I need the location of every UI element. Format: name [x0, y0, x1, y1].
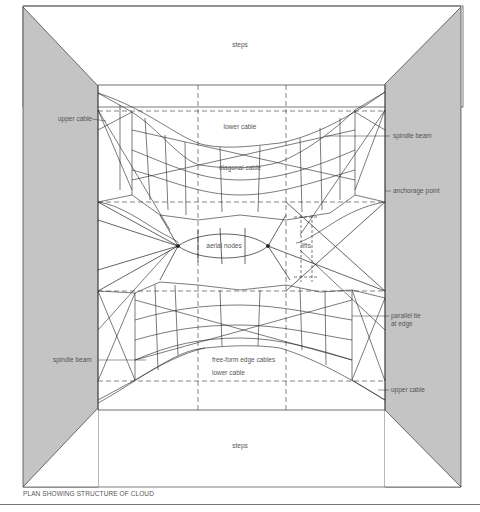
label-anchorage-point: anchorage point [393, 187, 440, 195]
label-lower-cable-bottom: lower cable [212, 369, 245, 376]
label-upper-cable-right: upper cable [391, 386, 425, 394]
label-diagonal-cable: diagonal cable [219, 164, 261, 172]
label-parallel-tie-line2: at edge [391, 320, 413, 328]
bottom-rule [0, 504, 480, 505]
cloud-structure-plan: steps steps upper cable lower cable spin… [0, 0, 480, 512]
figure-caption: PLAN SHOWING STRUCTURE OF CLOUD [23, 490, 154, 497]
label-lower-cable-top: lower cable [224, 123, 257, 130]
right-wall [385, 7, 461, 487]
label-aerial-nodes: aerial nodes [206, 242, 242, 249]
label-spindle-beam-top: spindle beam [393, 132, 432, 140]
label-upper-cable-left: upper cable [58, 115, 92, 123]
left-wall [23, 7, 98, 487]
label-lifts: lifts [301, 242, 312, 249]
label-steps-top: steps [232, 41, 248, 49]
lower-cable-mesh [98, 250, 385, 403]
label-spindle-beam-bottom: spindle beam [53, 356, 92, 364]
label-free-form-edge-cables: free-form edge cables [212, 356, 276, 364]
label-parallel-tie-line1: parallel tie [391, 312, 421, 320]
label-steps-bottom: steps [232, 442, 248, 450]
